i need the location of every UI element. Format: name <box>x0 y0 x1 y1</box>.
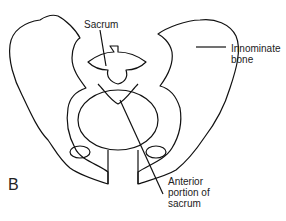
label-sacrum: Sacrum <box>84 19 118 30</box>
label-innominate-line1: Innominate <box>231 43 280 54</box>
label-anterior-sacrum: Anterior portion of sacrum <box>168 176 210 209</box>
label-anterior-line3: sacrum <box>168 198 210 209</box>
right-obturator-foramen <box>146 146 166 158</box>
anterior-leader <box>120 100 163 194</box>
left-innominate-bone <box>10 15 108 184</box>
panel-label: B <box>8 176 19 194</box>
pelvis-illustration <box>0 0 286 221</box>
sacrum <box>88 46 146 84</box>
label-innominate-line2: bone <box>231 54 280 65</box>
sacrum-leader <box>100 30 106 66</box>
left-obturator-foramen <box>70 146 90 158</box>
label-anterior-line2: portion of <box>168 187 210 198</box>
label-anterior-line1: Anterior <box>168 176 210 187</box>
pelvic-inlet <box>78 90 158 150</box>
anterior-sacrum <box>98 84 138 104</box>
label-innominate: Innominate bone <box>231 43 280 65</box>
right-innominate-bone <box>138 20 238 184</box>
